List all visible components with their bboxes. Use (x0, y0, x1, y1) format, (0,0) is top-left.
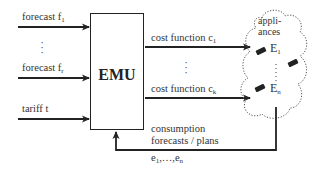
feedback-label-line2: forecasts / plans (151, 136, 219, 147)
input-ellipsis: ··· (40, 40, 44, 55)
input-label-fr: forecast fr (22, 63, 64, 75)
feedback-label-line1: consumption (151, 124, 205, 135)
output-ellipsis: ··· (184, 60, 188, 75)
output-label-ck: cost function ck (151, 84, 216, 96)
emu-box: EMU (90, 13, 144, 130)
cloud-title-line1: appli- (258, 16, 281, 26)
appliance-icon-e1 (255, 47, 266, 56)
appliance-icon-extra (287, 59, 298, 68)
input-label-tariff: tariff t (22, 104, 48, 115)
input-label-f1: forecast f1 (22, 12, 65, 24)
feedback-label-line3: e1,…,en (151, 153, 183, 165)
cloud-title-line2: ances (258, 27, 280, 37)
emu-label: EMU (91, 66, 143, 84)
device-label-e1: E1 (270, 42, 281, 56)
appliance-icon-en (254, 84, 265, 93)
output-label-c1: cost function c1 (151, 33, 216, 45)
device-label-en: En (270, 82, 281, 96)
